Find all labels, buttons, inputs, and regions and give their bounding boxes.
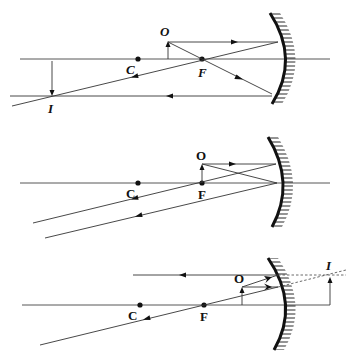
image-arrowhead bbox=[328, 277, 333, 283]
center-point bbox=[137, 302, 142, 307]
label-image: I bbox=[47, 101, 54, 116]
label-center: C bbox=[126, 186, 135, 201]
label-focus: F bbox=[198, 187, 206, 202]
concave-mirror bbox=[268, 258, 296, 350]
center-point bbox=[135, 180, 140, 185]
label-image: I bbox=[325, 258, 332, 273]
label-center: C bbox=[126, 62, 135, 77]
label-object: O bbox=[196, 148, 206, 163]
label-object: O bbox=[234, 271, 244, 286]
label-focus: F bbox=[197, 65, 207, 80]
label-object: O bbox=[160, 24, 170, 39]
label-center: C bbox=[128, 308, 137, 323]
concave-mirror bbox=[270, 13, 296, 104]
label-focus: F bbox=[200, 309, 208, 324]
ray-diagram-figure: O C F I O C F bbox=[0, 0, 350, 364]
diagram-2: O C F bbox=[20, 137, 330, 238]
diagram-3: O C F I bbox=[22, 258, 346, 350]
diagram-1: O C F I bbox=[10, 13, 330, 116]
center-point bbox=[135, 56, 140, 61]
